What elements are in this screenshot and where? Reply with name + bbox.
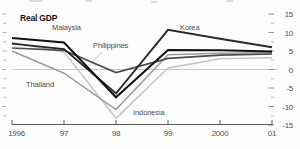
x-tick-label-2000: 2000: [212, 129, 229, 138]
series-label-philippines: Philippines: [93, 41, 129, 50]
right-axis-ticks: [269, 14, 275, 125]
y-tick-label-0: 0: [289, 66, 294, 75]
y-tick-label-5: 5: [289, 47, 294, 56]
real-gdp-chart: Real GDP Malaysia Philippines Korea Thai…: [0, 0, 300, 149]
series-label-indonesia: Indonesia: [133, 108, 166, 117]
y-tick-label-neg5: -5: [286, 84, 293, 93]
x-tick-label-98: 98: [112, 129, 121, 138]
y-tick-label-neg15: -15: [282, 121, 294, 130]
x-tick-label-1996: 1996: [8, 129, 25, 138]
x-axis-ticks: [12, 120, 272, 125]
y-tick-label-10: 10: [285, 29, 294, 38]
y-tick-label-15: 15: [285, 10, 294, 19]
left-axis-ticks: [3, 14, 7, 116]
x-tick-label-01: 01: [268, 129, 277, 138]
y-tick-label-neg10: -10: [282, 103, 294, 112]
series-label-thailand: Thailand: [26, 80, 54, 89]
series-label-malaysia: Malaysia: [52, 23, 82, 32]
series-label-korea: Korea: [180, 23, 200, 32]
x-tick-label-97: 97: [60, 129, 69, 138]
x-tick-label-99: 99: [164, 129, 173, 138]
chart-canvas: Real GDP Malaysia Philippines Korea Thai…: [0, 0, 300, 149]
chart-title: Real GDP: [20, 13, 58, 23]
series-lines: [12, 30, 272, 118]
